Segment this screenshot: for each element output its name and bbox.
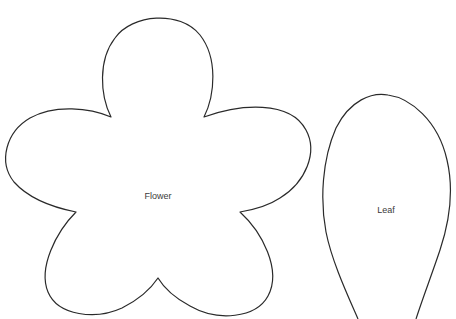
leaf-label: Leaf <box>377 205 395 215</box>
template-canvas: Flower Leaf <box>0 0 456 319</box>
shapes-layer <box>0 0 456 319</box>
flower-outline <box>6 18 311 316</box>
flower-label: Flower <box>144 191 171 201</box>
